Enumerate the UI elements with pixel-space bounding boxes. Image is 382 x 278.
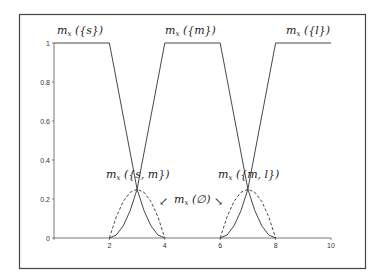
series-group	[54, 43, 331, 238]
x-tick-label: 10	[327, 242, 335, 249]
arrow-left-icon: ↙	[159, 195, 168, 208]
frame-border	[20, 15, 366, 269]
chart: 24681000.20.40.60.81 mx ({s}) mx ({m}) m…	[0, 0, 382, 278]
label-m-l: mx ({l})	[286, 24, 330, 38]
arrow-right-icon: ↘	[214, 195, 223, 208]
x-tick-label: 2	[107, 242, 111, 249]
label-m-s: mx ({s})	[57, 24, 103, 38]
series-line	[109, 189, 164, 238]
series-line	[109, 43, 275, 238]
y-tick-label: 0.8	[40, 79, 50, 86]
label-m-ml: mx ({m, l})	[218, 168, 279, 182]
label-m-sm: mx ({s, m})	[106, 168, 170, 182]
x-tick-label: 4	[163, 242, 167, 249]
series-line	[220, 189, 275, 238]
x-tick-label: 6	[218, 242, 222, 249]
y-tick-label: 0.4	[40, 157, 50, 164]
y-tick-label: 0.2	[40, 196, 50, 203]
axes: 24681000.20.40.60.81	[40, 40, 335, 250]
series-line	[220, 43, 331, 238]
y-tick-label: 1	[46, 40, 50, 47]
series-line	[54, 43, 165, 238]
y-tick-label: 0	[46, 235, 50, 242]
y-tick-label: 0.6	[40, 118, 50, 125]
x-tick-label: 8	[274, 242, 278, 249]
label-m-empty: mx (∅)	[174, 193, 210, 207]
label-m-m: mx ({m})	[165, 24, 216, 38]
